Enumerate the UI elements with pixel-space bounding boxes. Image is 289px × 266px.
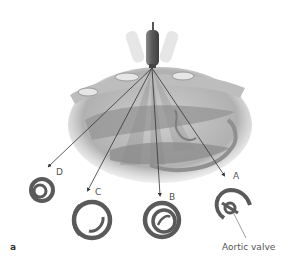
view-d-ring xyxy=(31,179,53,201)
aortic-valve-label: Aortic valve xyxy=(222,243,275,252)
view-a-ring xyxy=(217,190,250,238)
panel-label: a xyxy=(10,243,16,252)
view-label-b: B xyxy=(169,193,175,202)
view-b-ring xyxy=(145,203,179,237)
view-label-d: D xyxy=(56,168,63,177)
view-label-a: A xyxy=(233,172,239,181)
view-c-ring xyxy=(74,202,110,238)
view-label-c: C xyxy=(95,188,101,197)
transducer-probe-icon xyxy=(124,22,179,68)
echocardiography-diagram: D C B A a Aortic valve xyxy=(0,0,289,266)
